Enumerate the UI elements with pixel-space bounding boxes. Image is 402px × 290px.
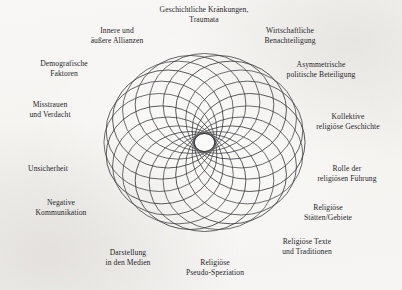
label-line: Religiöse Texte <box>282 237 332 247</box>
label-line: Misstrauen <box>29 100 70 110</box>
diagram-label-religioese-pseudo-speziation: ReligiösePseudo-Speziation <box>186 258 244 278</box>
label-line: Geschichtliche Kränkungen, <box>160 5 249 15</box>
diagram-label-unsicherheit: Unsicherheit <box>28 164 68 174</box>
diagram-label-rolle-der-religioesen-fuehrung: Rolle derreligiösen Führung <box>317 164 376 184</box>
label-line: Unsicherheit <box>28 164 68 174</box>
label-line: Benachteiligung <box>264 36 315 46</box>
rosette-circles-graphic <box>0 0 402 290</box>
figure-page: Geschichtliche Kränkungen,TraumataInnere… <box>0 0 402 290</box>
label-line: Pseudo-Speziation <box>186 268 244 278</box>
label-line: religiöse Geschichte <box>316 122 380 132</box>
diagram-label-religioese-staetten-gebiete: ReligiöseStätten/Gebiete <box>304 203 352 223</box>
label-line: Negative <box>36 198 87 208</box>
diagram-label-misstrauen-und-verdacht: Misstrauenund Verdacht <box>29 100 70 120</box>
diagram-label-demografische-faktoren: DemografischeFaktoren <box>40 59 88 79</box>
diagram-label-wirtschaftliche-benachteiligung: WirtschaftlicheBenachteiligung <box>264 26 315 46</box>
label-line: und Traditionen <box>282 247 332 257</box>
label-line: Religiöse <box>304 203 352 213</box>
diagram-label-religioese-texte-und-traditionen: Religiöse Texteund Traditionen <box>282 237 332 257</box>
label-line: Kommunikation <box>36 208 87 218</box>
label-line: Demografische <box>40 59 88 69</box>
label-line: und Verdacht <box>29 110 70 120</box>
label-line: Stätten/Gebiete <box>304 213 352 223</box>
label-line: Innere und <box>91 26 144 36</box>
label-line: Faktoren <box>40 69 88 79</box>
diagram-label-innere-aeussere-allianzen: Innere undäußere Allianzen <box>91 26 144 46</box>
label-line: religiösen Führung <box>317 174 376 184</box>
label-line: äußere Allianzen <box>91 36 144 46</box>
label-line: Asymmetrische <box>287 60 356 70</box>
diagram-label-asymmetrische-politische-beteiligung: Asymmetrischepolitische Beteiligung <box>287 60 356 80</box>
diagram-label-geschichtliche-kraenkungen: Geschichtliche Kränkungen,Traumata <box>160 5 249 25</box>
label-line: Rolle der <box>317 164 376 174</box>
diagram-label-kollektive-religioese-geschichte: Kollektivereligiöse Geschichte <box>316 112 380 132</box>
label-line: Kollektive <box>316 112 380 122</box>
diagram-label-darstellung-in-den-medien: Darstellungin den Medien <box>105 248 150 268</box>
diagram-label-negative-kommunikation: NegativeKommunikation <box>36 198 87 218</box>
label-line: Darstellung <box>105 248 150 258</box>
label-line: Traumata <box>160 15 249 25</box>
label-line: Wirtschaftliche <box>264 26 315 36</box>
label-line: in den Medien <box>105 258 150 268</box>
label-line: Religiöse <box>186 258 244 268</box>
label-line: politische Beteiligung <box>287 70 356 80</box>
